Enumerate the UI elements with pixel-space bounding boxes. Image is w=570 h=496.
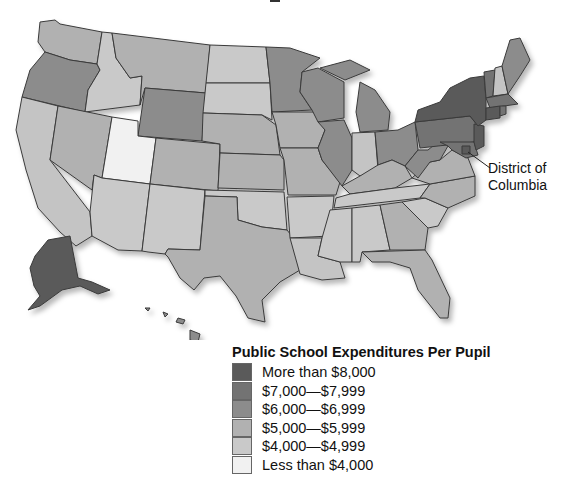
state-new-mexico xyxy=(142,184,205,254)
state-arizona xyxy=(90,175,150,251)
legend-item: $5,000—$5,999 xyxy=(232,419,491,438)
legend-swatch xyxy=(232,400,252,418)
state-maine xyxy=(502,38,530,94)
legend-item: $4,000—$4,999 xyxy=(232,437,491,456)
state-colorado xyxy=(150,138,220,191)
dc-annotation-line2: Columbia xyxy=(488,177,547,194)
legend-swatch xyxy=(232,382,252,400)
dc-annotation: District of Columbia xyxy=(488,160,547,194)
state-north-dakota xyxy=(206,45,270,83)
legend-swatch xyxy=(232,363,252,381)
dc-annotation-line1: District of xyxy=(488,160,547,177)
legend-item: $6,000—$6,999 xyxy=(232,400,491,419)
legend-label: $6,000—$6,999 xyxy=(262,401,365,417)
state-new-york xyxy=(415,76,486,126)
legend-item: $7,000—$7,999 xyxy=(232,382,491,401)
state-rhode-island xyxy=(500,106,506,116)
state-michigan xyxy=(356,82,390,132)
state-wyoming xyxy=(138,88,206,141)
state-new-jersey xyxy=(474,124,484,150)
state-hawaii xyxy=(145,308,200,340)
state-florida xyxy=(362,250,450,318)
legend-item: Less than $4,000 xyxy=(232,456,491,475)
us-choropleth-map xyxy=(0,0,570,340)
legend-swatch xyxy=(232,437,252,455)
legend-label: $7,000—$7,999 xyxy=(262,383,365,399)
state-alaska xyxy=(28,236,110,310)
legend-swatch xyxy=(232,456,252,474)
legend-label: More than $8,000 xyxy=(262,364,376,380)
legend-item: More than $8,000 xyxy=(232,363,491,382)
legend-label: Less than $4,000 xyxy=(262,457,373,473)
state-connecticut xyxy=(486,106,500,120)
legend-label: $4,000—$4,999 xyxy=(262,438,365,454)
legend-swatch xyxy=(232,419,252,437)
state-kansas xyxy=(218,153,284,190)
legend: Public School Expenditures Per Pupil Mor… xyxy=(232,344,491,474)
legend-label: $5,000—$5,999 xyxy=(262,420,365,436)
legend-title: Public School Expenditures Per Pupil xyxy=(232,344,491,360)
